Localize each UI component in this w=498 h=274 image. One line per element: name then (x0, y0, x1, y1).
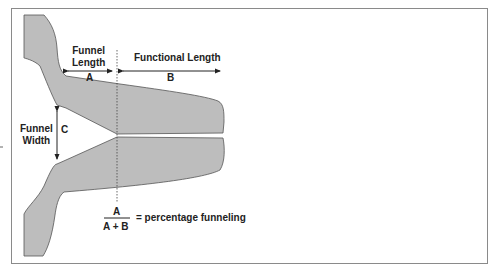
funnel-width-line2: Width (20, 135, 53, 147)
upper-cervical-wall (24, 15, 224, 134)
funnel-length-line2: Length (72, 57, 105, 69)
label-b: B (167, 72, 174, 84)
label-c: C (61, 124, 68, 136)
funnel-length-label: Funnel Length (72, 45, 105, 69)
formula-numerator: A (113, 206, 120, 218)
formula-denominator: A + B (103, 221, 128, 233)
funnel-width-line1: Funnel (20, 123, 53, 135)
cervix-diagram (0, 0, 498, 274)
funnel-width-label: Funnel Width (20, 123, 53, 147)
funnel-length-line1: Funnel (72, 45, 105, 57)
formula-result: = percentage funneling (136, 212, 246, 224)
lower-cervical-wall (24, 137, 224, 256)
functional-length-label: Functional Length (134, 52, 221, 64)
label-a: A (86, 72, 93, 84)
